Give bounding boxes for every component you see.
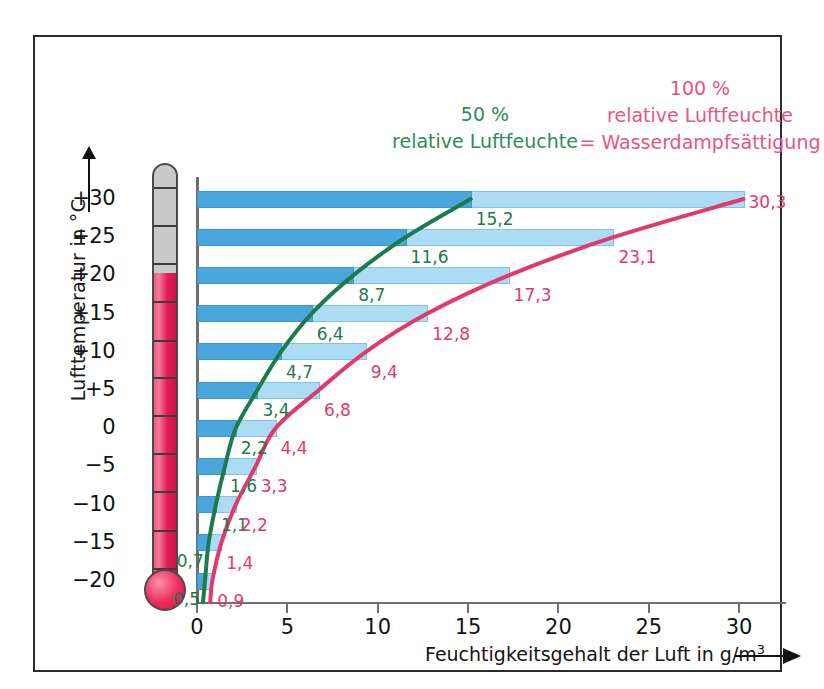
x-axis-tick-label: 25 bbox=[629, 615, 669, 639]
legend-100-line1: 100 % bbox=[565, 75, 824, 102]
x-axis-title: Feuchtigkeitsgehalt der Luft in g/m3 bbox=[425, 642, 765, 665]
legend-100-line3: = Wasserdampfsättigung bbox=[565, 129, 824, 156]
y-axis-tick-label: 0 bbox=[57, 415, 115, 439]
x-axis-tick bbox=[286, 602, 288, 613]
value-label-100-percent: 17,3 bbox=[514, 285, 552, 305]
legend-50-line1: 50 % bbox=[380, 101, 590, 128]
value-label-100-percent: 9,4 bbox=[371, 362, 398, 382]
x-axis-tick bbox=[557, 602, 559, 613]
value-label-50-percent: 6,4 bbox=[317, 324, 344, 344]
y-axis-tick-label: −5 bbox=[57, 453, 115, 477]
value-label-50-percent: 0,7 bbox=[177, 551, 204, 571]
value-label-100-percent: 6,8 bbox=[324, 400, 351, 420]
x-axis-title-text: Feuchtigkeitsgehalt der Luft in g/m bbox=[425, 643, 757, 665]
value-label-50-percent: 1,6 bbox=[230, 476, 257, 496]
y-axis-tick-label: −20 bbox=[57, 568, 115, 592]
x-axis-tick bbox=[738, 602, 740, 613]
value-label-50-percent: 4,7 bbox=[286, 362, 313, 382]
legend-100-percent: 100 % relative Luftfeuchte = Wasserdampf… bbox=[565, 75, 824, 156]
x-axis-tick-label: 20 bbox=[538, 615, 578, 639]
value-label-50-percent: 0,5 bbox=[173, 589, 200, 609]
x-axis-tick-label: 5 bbox=[267, 615, 307, 639]
y-axis-tick-label: −15 bbox=[57, 530, 115, 554]
y-axis-tick-label: +25 bbox=[57, 224, 115, 248]
y-axis-tick-label: +15 bbox=[57, 301, 115, 325]
value-label-100-percent: 30,3 bbox=[749, 192, 787, 212]
y-axis-tick-label: −10 bbox=[57, 492, 115, 516]
y-axis-tick-label: +30 bbox=[57, 186, 115, 210]
thermometer-mercury bbox=[154, 273, 176, 593]
value-label-100-percent: 12,8 bbox=[432, 324, 470, 344]
value-label-100-percent: 0,9 bbox=[217, 591, 244, 611]
curve-group bbox=[196, 177, 796, 602]
plot-x-axis-line bbox=[196, 602, 786, 604]
curve-100-percent bbox=[210, 199, 743, 602]
value-label-50-percent: 8,7 bbox=[358, 285, 385, 305]
x-axis-tick bbox=[377, 602, 379, 613]
value-label-50-percent: 15,2 bbox=[476, 209, 514, 229]
x-axis-tick-label: 30 bbox=[719, 615, 759, 639]
value-label-50-percent: 2,2 bbox=[241, 438, 268, 458]
plot-area: 051015202530 15,211,68,76,44,73,42,21,61… bbox=[196, 177, 796, 602]
value-label-50-percent: 3,4 bbox=[262, 400, 289, 420]
thermometer-illustration bbox=[152, 163, 178, 608]
legend-50-line2: relative Luftfeuchte bbox=[380, 128, 590, 155]
x-axis-tick bbox=[467, 602, 469, 613]
x-axis-arrow-head-icon bbox=[783, 648, 801, 664]
chart-frame: Lufttemperatur in °C +30+25+20+15+10+50−… bbox=[33, 35, 782, 672]
x-axis-tick bbox=[648, 602, 650, 613]
value-label-100-percent: 1,4 bbox=[226, 553, 253, 573]
x-axis-tick-label: 0 bbox=[177, 615, 217, 639]
value-label-100-percent: 23,1 bbox=[618, 247, 656, 267]
x-axis-tick-label: 15 bbox=[448, 615, 488, 639]
thermometer-tube bbox=[152, 163, 178, 595]
y-axis-tick-label: +10 bbox=[57, 339, 115, 363]
y-axis-tick-label: +5 bbox=[57, 377, 115, 401]
y-axis-tick-label: +20 bbox=[57, 262, 115, 286]
legend-50-percent: 50 % relative Luftfeuchte bbox=[380, 101, 590, 154]
value-label-50-percent: 11,6 bbox=[411, 247, 449, 267]
legend-100-line2: relative Luftfeuchte bbox=[565, 102, 824, 129]
value-label-100-percent: 3,3 bbox=[261, 476, 288, 496]
value-label-100-percent: 4,4 bbox=[281, 438, 308, 458]
x-axis-tick-label: 10 bbox=[358, 615, 398, 639]
value-label-100-percent: 2,2 bbox=[241, 515, 268, 535]
